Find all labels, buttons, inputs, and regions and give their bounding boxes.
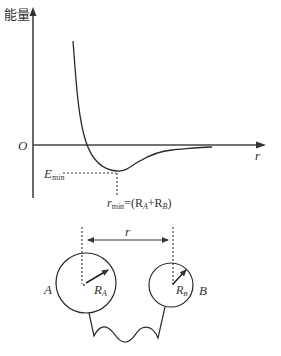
sphere-a-center-dot [83,284,85,286]
sphere-b-label: B [199,283,207,298]
potential-energy-diagram: 能量 r O Emin rmin=(RA+RB) r A [0,0,281,356]
origin-label: O [18,138,28,153]
y-axis-arrow-icon [30,7,37,16]
potential-energy-curve [73,41,212,171]
sphere-a-label: A [43,282,52,297]
e-min-label: Emin [43,166,64,182]
y-axis-label: 能量 [4,7,30,22]
sphere-b-radius-label: RB [175,283,188,298]
x-axis-label: r [255,148,261,163]
distance-label: r [125,224,131,239]
spring-connector [89,307,165,342]
energy-graph: 能量 r O Emin rmin=(RA+RB) [4,7,266,211]
r-min-label: rmin=(RA+RB) [107,196,171,211]
sphere-spring-model: r A RA B RB [43,224,207,342]
sphere-b [149,263,193,307]
sphere-a-radius-label: RA [93,282,107,298]
sphere-b-radius-arrow [173,270,186,284]
